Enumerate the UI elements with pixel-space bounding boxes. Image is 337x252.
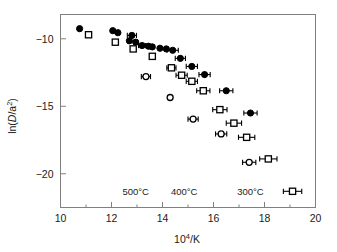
marker-open-square	[217, 107, 223, 113]
scatter-plot: 101214161820 −10−15−20 500°C400°C300°C 1…	[0, 0, 337, 252]
plot-frame	[61, 15, 316, 208]
marker-filled-circle	[163, 46, 169, 52]
marker-open-square	[112, 39, 118, 45]
y-tick-labels: −10−15−20	[36, 33, 54, 180]
marker-open-square	[231, 120, 237, 126]
x-tick-label: 12	[106, 212, 118, 224]
marker-filled-circle	[247, 110, 253, 116]
temperature-label: 400°C	[171, 186, 198, 197]
y-axis-label: ln(D/a2)	[5, 98, 18, 134]
open-circle-series	[141, 74, 255, 166]
marker-open-square	[130, 46, 136, 52]
y-tick-label: −20	[36, 168, 54, 180]
x-tick-labels: 101214161820	[55, 212, 322, 224]
temperature-label: 300°C	[237, 186, 264, 197]
marker-open-square	[168, 65, 174, 71]
marker-filled-circle	[157, 45, 163, 51]
marker-open-square	[149, 53, 155, 59]
marker-open-circle	[246, 159, 252, 165]
marker-open-circle	[218, 131, 224, 137]
marker-open-square	[189, 78, 195, 84]
x-tick-label: 14	[157, 212, 169, 224]
marker-open-circle	[143, 74, 149, 80]
marker-filled-circle	[126, 38, 132, 44]
x-tick-label: 20	[310, 212, 322, 224]
marker-open-circle	[190, 116, 196, 122]
marker-open-square	[244, 134, 250, 140]
marker-open-square	[289, 188, 295, 194]
marker-filled-circle	[115, 30, 121, 36]
marker-open-square	[85, 32, 91, 38]
marker-open-circle	[167, 95, 173, 101]
marker-filled-circle	[139, 42, 145, 48]
marker-filled-circle	[149, 44, 155, 50]
figure-container: 101214161820 −10−15−20 500°C400°C300°C 1…	[0, 0, 337, 252]
marker-filled-circle	[201, 71, 207, 77]
filled-circle-series	[77, 26, 258, 117]
marker-filled-circle	[170, 47, 176, 53]
x-tick-label: 18	[259, 212, 271, 224]
x-axis-label: 104/K	[174, 232, 200, 245]
marker-open-square	[265, 156, 271, 162]
temperature-label: 500°C	[122, 186, 149, 197]
marker-filled-circle	[77, 26, 83, 32]
marker-open-square	[179, 72, 185, 78]
temperature-annotations: 500°C400°C300°C	[122, 186, 263, 197]
marker-open-square	[200, 88, 206, 94]
axis-ticks	[61, 39, 316, 208]
marker-filled-circle	[223, 88, 229, 94]
marker-filled-circle	[177, 55, 183, 61]
x-tick-label: 16	[208, 212, 220, 224]
x-tick-label: 10	[55, 212, 67, 224]
data-points	[77, 26, 302, 195]
marker-filled-circle	[133, 39, 139, 45]
y-tick-label: −15	[36, 100, 54, 112]
y-tick-label: −10	[36, 33, 54, 45]
marker-filled-circle	[189, 63, 195, 69]
open-square-series	[85, 32, 301, 195]
plot-border	[61, 15, 316, 208]
